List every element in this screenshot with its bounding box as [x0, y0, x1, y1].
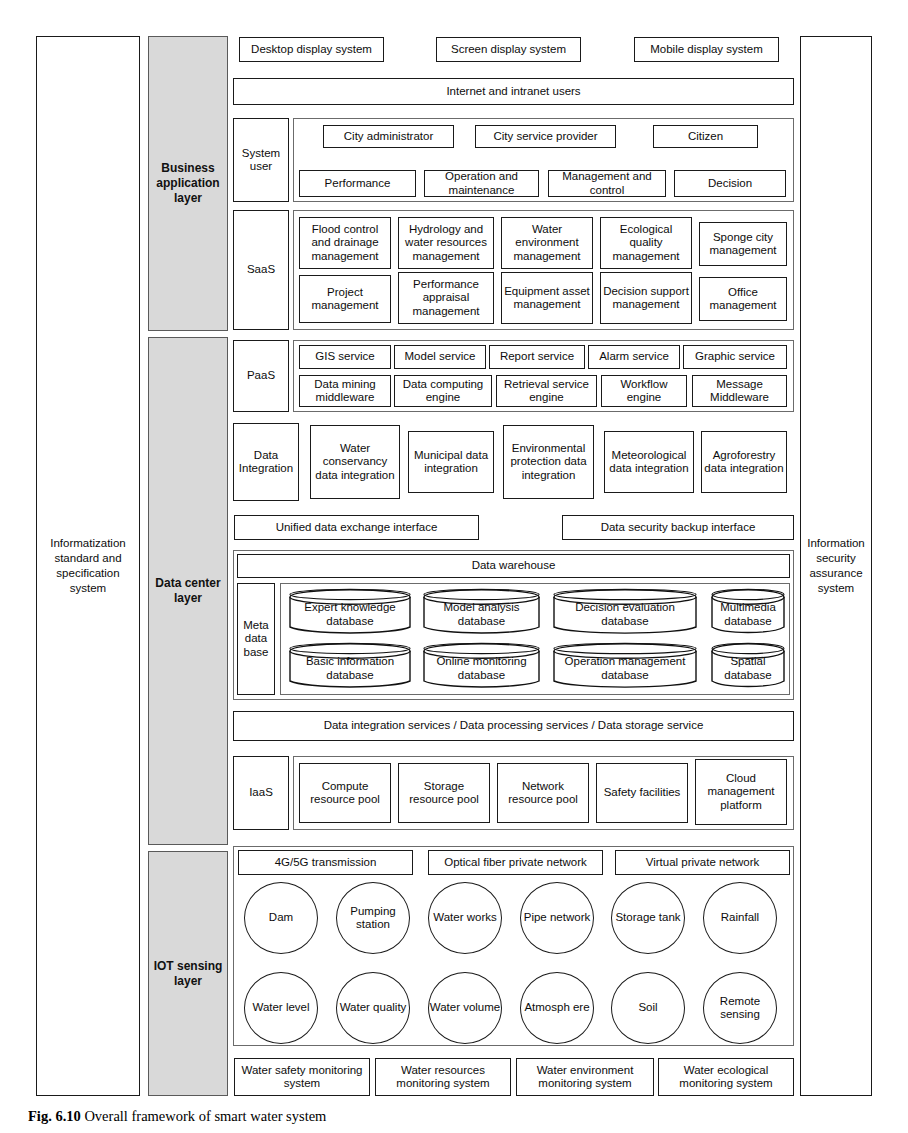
sensor-pipe-network[interactable]: Pipe network: [520, 882, 594, 954]
data-integration-meteorological-label: Meteorological data integration: [607, 449, 691, 476]
iaas-cloud-management-platform[interactable]: Cloud management platform: [695, 759, 787, 825]
sensor-water-quality[interactable]: Water quality: [336, 972, 410, 1044]
saas-office-management[interactable]: Office management: [699, 277, 787, 321]
role-citizen[interactable]: Citizen: [653, 125, 758, 148]
sensor-pumping-station[interactable]: Pumping station: [336, 882, 410, 954]
layer-data-center-label: Data center layer: [149, 576, 227, 606]
role-city-service-provider[interactable]: City service provider: [475, 125, 616, 148]
network-4g-5g-transmission[interactable]: 4G/5G transmission: [238, 850, 413, 875]
data-integration-water-conservancy-label: Water conservancy data integration: [313, 442, 397, 482]
paas-workflow-engine-label: Workflow engine: [604, 378, 684, 405]
function-performance[interactable]: Performance: [299, 170, 416, 197]
saas-flood-control-drainage[interactable]: Flood control and drainage management: [299, 217, 391, 269]
monitoring-system-water-environment[interactable]: Water environment monitoring system: [516, 1058, 654, 1096]
paas-graphic-service[interactable]: Graphic service: [683, 345, 787, 369]
database-decision-evaluation[interactable]: Decision evaluation database: [552, 588, 698, 636]
role-city-administrator[interactable]: City administrator: [323, 125, 454, 148]
data-integration-municipal[interactable]: Municipal data integration: [408, 431, 494, 493]
iaas-network-resource-pool[interactable]: Network resource pool: [497, 763, 589, 823]
saas-performance-appraisal[interactable]: Performance appraisal management: [398, 272, 494, 324]
function-management-control[interactable]: Management and control: [548, 170, 666, 197]
sensor-water-level[interactable]: Water level: [244, 972, 318, 1044]
sensor-water-volume[interactable]: Water volume: [428, 972, 502, 1044]
sensor-water-works[interactable]: Water works: [428, 882, 502, 954]
database-expert-knowledge[interactable]: Expert knowledge database: [288, 588, 412, 636]
sensor-water-level-label: Water level: [252, 1001, 309, 1014]
database-spatial[interactable]: Spatial database: [710, 642, 786, 690]
paas-data-computing-engine[interactable]: Data computing engine: [394, 375, 492, 407]
paas-report-service[interactable]: Report service: [489, 345, 585, 369]
paas-alarm-service[interactable]: Alarm service: [588, 345, 680, 369]
unified-data-exchange-interface[interactable]: Unified data exchange interface: [234, 515, 479, 540]
paas-retrieval-service-engine[interactable]: Retrieval service engine: [496, 375, 597, 407]
paas-data-mining-middleware[interactable]: Data mining middleware: [299, 375, 391, 407]
data-integration-label: Data Integration: [236, 449, 296, 476]
display-system-screen[interactable]: Screen display system: [436, 37, 581, 62]
iaas-storage-resource-pool[interactable]: Storage resource pool: [398, 763, 490, 823]
database-basic-information[interactable]: Basic information database: [288, 642, 412, 690]
paas-data-mining-middleware-label: Data mining middleware: [302, 378, 388, 405]
database-multimedia[interactable]: Multimedia database: [710, 588, 786, 636]
iaas-safety-facilities[interactable]: Safety facilities: [596, 763, 688, 823]
paas-alarm-service-label: Alarm service: [599, 350, 669, 363]
data-services-bar: Data integration services / Data process…: [233, 711, 794, 741]
saas-sponge-city[interactable]: Sponge city management: [699, 222, 787, 266]
paas-workflow-engine[interactable]: Workflow engine: [601, 375, 687, 407]
paas-model-service[interactable]: Model service: [394, 345, 486, 369]
sensor-pumping-station-label: Pumping station: [337, 905, 409, 932]
monitoring-system-water-resources[interactable]: Water resources monitoring system: [375, 1058, 511, 1096]
monitoring-system-water-ecological[interactable]: Water ecological monitoring system: [658, 1058, 794, 1096]
sensor-rainfall[interactable]: Rainfall: [703, 882, 777, 954]
saas-equipment-asset[interactable]: Equipment asset management: [501, 272, 593, 324]
saas-project-management-label: Project management: [302, 286, 388, 313]
function-operation-maintenance[interactable]: Operation and maintenance: [424, 170, 539, 197]
saas-decision-support[interactable]: Decision support management: [600, 272, 692, 324]
data-integration-water-conservancy[interactable]: Water conservancy data integration: [310, 425, 400, 499]
data-integration-environmental-protection[interactable]: Environmental protection data integratio…: [503, 425, 594, 499]
data-integration-municipal-label: Municipal data integration: [411, 449, 491, 476]
function-decision-label: Decision: [708, 177, 752, 190]
saas-project-management[interactable]: Project management: [299, 275, 391, 323]
monitoring-system-water-environment-label: Water environment monitoring system: [519, 1064, 651, 1091]
sensor-water-works-label: Water works: [433, 911, 496, 924]
network-virtual-private[interactable]: Virtual private network: [615, 850, 790, 875]
paas-gis-service-label: GIS service: [315, 350, 374, 363]
database-model-analysis[interactable]: Model analysis database: [422, 588, 541, 636]
database-online-monitoring[interactable]: Online monitoring database: [422, 642, 541, 690]
monitoring-system-water-safety[interactable]: Water safety monitoring system: [234, 1058, 370, 1096]
internet-intranet-users-bar: Internet and intranet users: [233, 78, 794, 105]
saas-water-environment[interactable]: Water environment management: [501, 217, 593, 269]
database-operation-management[interactable]: Operation management database: [552, 642, 698, 690]
display-system-mobile[interactable]: Mobile display system: [634, 37, 779, 62]
sensor-atmosphere[interactable]: Atmosph ere: [520, 972, 594, 1044]
figure-caption-label: Fig. 6.10: [28, 1108, 81, 1124]
meta-database-label-box: Meta data base: [237, 583, 275, 695]
paas-message-middleware[interactable]: Message Middleware: [692, 375, 787, 407]
saas-hydrology-water-resources[interactable]: Hydrology and water resources management: [398, 217, 494, 269]
data-security-backup-interface[interactable]: Data security backup interface: [562, 515, 794, 540]
sensor-soil[interactable]: Soil: [611, 972, 685, 1044]
sensor-soil-label: Soil: [638, 1001, 657, 1014]
data-integration-meteorological[interactable]: Meteorological data integration: [604, 431, 694, 493]
iaas-compute-resource-pool[interactable]: Compute resource pool: [299, 763, 391, 823]
left-side-column-informatization-standard: Informatization standard and specificati…: [36, 36, 140, 1096]
sensor-dam[interactable]: Dam: [244, 882, 318, 954]
saas-label-box: SaaS: [233, 210, 289, 330]
paas-retrieval-service-engine-label: Retrieval service engine: [499, 378, 594, 405]
database-operation-management-label: Operation management database: [552, 642, 698, 690]
sensor-storage-tank[interactable]: Storage tank: [611, 882, 685, 954]
function-performance-label: Performance: [325, 177, 391, 190]
display-system-desktop[interactable]: Desktop display system: [239, 37, 384, 62]
network-optical-fiber-private[interactable]: Optical fiber private network: [428, 850, 603, 875]
layer-business-application: Business application layer: [148, 36, 228, 331]
saas-performance-appraisal-label: Performance appraisal management: [401, 278, 491, 318]
sensor-dam-label: Dam: [269, 911, 293, 924]
saas-ecological-quality[interactable]: Ecological quality management: [600, 217, 692, 269]
sensor-remote-sensing[interactable]: Remote sensing: [703, 972, 777, 1044]
role-city-administrator-label: City administrator: [344, 130, 433, 143]
paas-data-computing-engine-label: Data computing engine: [397, 378, 489, 405]
system-user-label-box: System user: [233, 118, 289, 202]
paas-gis-service[interactable]: GIS service: [299, 345, 391, 369]
data-integration-agroforestry[interactable]: Agroforestry data integration: [701, 431, 787, 493]
function-decision[interactable]: Decision: [674, 170, 786, 197]
